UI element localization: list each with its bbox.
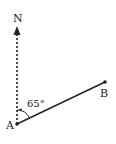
angle-label: 65°	[27, 98, 45, 109]
bearing-diagram: N A B 65°	[0, 0, 116, 144]
point-b	[103, 80, 107, 84]
point-a	[15, 122, 19, 126]
point-a-label: A	[5, 119, 15, 132]
north-label: N	[13, 12, 23, 25]
point-b-label: B	[100, 87, 108, 100]
north-arrow-icon	[14, 26, 21, 35]
angle-arc	[17, 110, 30, 118]
